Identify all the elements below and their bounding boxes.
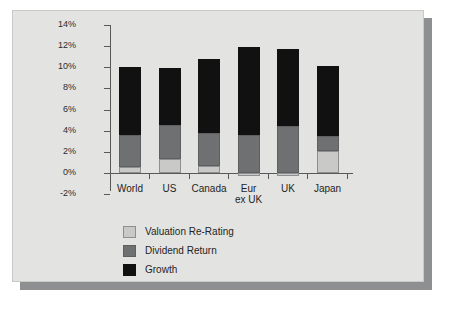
y-axis-label: 6% [63,105,76,114]
bar-segment-growth [238,47,260,136]
bar-segment-growth [198,59,220,133]
bar-segment-dividend [317,136,339,151]
y-axis-tick [104,152,110,153]
bar-us [159,11,181,211]
x-axis-tick [307,174,308,179]
y-axis-tick [104,194,110,195]
bar-eur-ex-uk [238,11,260,211]
legend-swatch-valuation [123,226,136,238]
y-axis-label: 4% [63,126,76,135]
x-axis-tick [189,174,190,179]
bar-segment-dividend [277,126,299,173]
legend-item-valuation: Valuation Re-Rating [123,223,234,240]
legend-swatch-dividend [123,245,136,257]
x-axis-category-label: Japan [293,183,363,194]
bar-segment-valuation [317,151,339,173]
x-axis-tick [228,174,229,179]
bar-segment-growth [159,68,181,125]
bar-segment-growth [317,66,339,136]
bar-world [119,11,141,211]
chart-screenshot: 14%12%10%8%6%4%2%0%-2%WorldUSCanadaEurex… [0,0,457,309]
legend-item-growth: Growth [123,261,234,278]
y-axis-tick [104,110,110,111]
y-axis-label: -2% [60,189,76,198]
bar-segment-valuation [238,173,260,176]
legend-label: Growth [145,264,177,275]
legend-label: Valuation Re-Rating [145,226,234,237]
legend-swatch-growth [123,264,136,276]
y-axis-tick [104,25,110,26]
y-axis-line [110,25,111,191]
y-axis-label: 2% [63,147,76,156]
y-axis-tick [104,88,110,89]
y-axis-label: 14% [58,20,76,29]
bar-japan [317,11,339,211]
bar-segment-growth [119,67,141,135]
bar-segment-valuation [119,167,141,173]
chart-panel: 14%12%10%8%6%4%2%0%-2%WorldUSCanadaEurex… [12,10,424,282]
bar-segment-dividend [119,135,141,167]
bar-segment-dividend [238,135,260,173]
bar-segment-valuation [198,166,220,173]
y-axis-label: 8% [63,83,76,92]
bar-segment-dividend [198,133,220,166]
y-axis-tick [104,131,110,132]
legend-item-dividend: Dividend Return [123,242,234,259]
y-axis-label: 12% [58,41,76,50]
bar-uk [277,11,299,211]
y-axis-label: 0% [63,168,76,177]
bar-segment-valuation [159,159,181,173]
x-axis-tick [268,174,269,179]
bar-segment-valuation [277,173,299,176]
y-axis-label: 10% [58,62,76,71]
legend-label: Dividend Return [145,245,217,256]
y-axis-tick [104,173,110,174]
x-axis-tick [347,174,348,179]
bar-segment-dividend [159,125,181,158]
bar-segment-growth [277,49,299,127]
chart-legend: Valuation Re-RatingDividend ReturnGrowth [123,223,234,280]
y-axis-tick [104,46,110,47]
x-axis-tick [149,174,150,179]
bar-canada [198,11,220,211]
y-axis-tick [104,67,110,68]
